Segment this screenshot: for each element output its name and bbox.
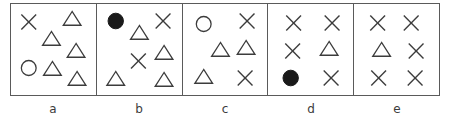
panel-d-shapes — [268, 4, 353, 95]
panel-labels-row: a b c d e — [10, 99, 440, 121]
panel-row — [10, 3, 440, 96]
cross-icon — [409, 44, 424, 59]
triangle-icon — [43, 32, 61, 46]
cross-icon — [408, 71, 423, 86]
panel-label-c: c — [182, 99, 268, 121]
cross-icon — [239, 14, 254, 29]
panel-b-shapes — [97, 4, 182, 95]
cross-icon — [324, 71, 339, 86]
cross-icon — [237, 71, 252, 86]
circle-open-icon — [196, 17, 211, 32]
panel-b — [97, 4, 183, 95]
triangle-icon — [67, 44, 85, 58]
panel-a-shapes — [11, 4, 96, 95]
cross-icon — [325, 16, 340, 31]
panel-d — [268, 4, 354, 95]
circle-open-icon — [21, 61, 36, 76]
panel-label-b: b — [96, 99, 182, 121]
triangle-icon — [321, 42, 339, 56]
panel-c-shapes — [183, 4, 268, 95]
circle-filled-icon — [108, 13, 123, 29]
triangle-icon — [63, 12, 81, 26]
cross-icon — [155, 14, 170, 29]
cross-icon — [371, 71, 386, 86]
shape-comparison-figure: a b c d e — [0, 0, 450, 124]
triangle-icon — [130, 26, 148, 40]
triangle-icon — [68, 72, 86, 86]
panel-label-e: e — [354, 99, 440, 121]
triangle-icon — [237, 41, 255, 55]
triangle-icon — [155, 73, 173, 87]
panel-a — [11, 4, 97, 95]
triangle-icon — [44, 62, 62, 76]
cross-icon — [21, 15, 36, 30]
triangle-icon — [155, 46, 173, 60]
panel-label-d: d — [268, 99, 354, 121]
cross-icon — [131, 54, 146, 69]
cross-icon — [287, 16, 302, 31]
panel-c — [183, 4, 269, 95]
triangle-icon — [194, 70, 212, 84]
panel-label-a: a — [10, 99, 96, 121]
cross-icon — [286, 44, 301, 59]
triangle-icon — [373, 43, 391, 57]
cross-icon — [370, 16, 385, 31]
circle-filled-icon — [283, 70, 298, 86]
panel-e-shapes — [354, 4, 439, 95]
triangle-icon — [107, 72, 125, 86]
triangle-icon — [211, 43, 229, 57]
panel-e — [354, 4, 439, 95]
cross-icon — [404, 16, 419, 31]
